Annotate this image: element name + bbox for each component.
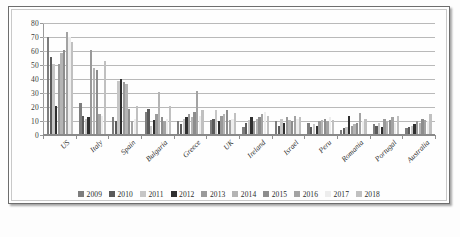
y-tick-mark [40, 121, 43, 122]
y-tick-mark [40, 65, 43, 66]
x-tick-mark [435, 135, 436, 139]
bar-groups [44, 23, 435, 134]
x-tick-label: Bulgaria [144, 138, 169, 163]
chart-screenshot: 01020304050607080 USItalySpainBulgariaGr… [0, 0, 460, 237]
bar [267, 116, 269, 134]
bar-group [239, 23, 272, 134]
bar [201, 110, 203, 134]
legend-label: 2015 [272, 190, 287, 199]
bar [71, 42, 73, 134]
bar [234, 113, 236, 134]
bar-group [305, 23, 338, 134]
bar [332, 120, 334, 134]
bar-group [370, 23, 403, 134]
legend-label: 2013 [210, 190, 225, 199]
x-tick-label: UK [221, 138, 235, 152]
x-tick-label: Peru [316, 138, 333, 155]
y-tick-mark [40, 93, 43, 94]
legend-label: 2011 [148, 190, 163, 199]
legend-item[interactable]: 2018 [356, 190, 380, 199]
legend-label: 2010 [118, 190, 133, 199]
chart-legend: 2009201020112012201320142015201620172018 [19, 185, 439, 203]
x-tick-label: Spain [118, 138, 137, 157]
legend-item[interactable]: 2016 [294, 190, 318, 199]
bar [169, 106, 171, 134]
x-tick-label: US [59, 138, 72, 151]
y-tick-label: 40 [31, 75, 39, 84]
bar-group [44, 23, 77, 134]
legend-label: 2014 [241, 190, 256, 199]
legend-label: 2017 [334, 190, 349, 199]
y-tick-mark [40, 107, 43, 108]
x-tick-labels: USItalySpainBulgariaGreeceUKIrelandIsrae… [43, 138, 435, 184]
y-tick-label: 70 [31, 33, 39, 42]
plot-area: 01020304050607080 [43, 23, 435, 135]
legend-item[interactable]: 2013 [201, 190, 225, 199]
y-tick-mark [40, 37, 43, 38]
legend-label: 2012 [179, 190, 194, 199]
x-tick-label: Australia [405, 138, 431, 164]
y-tick-mark [40, 51, 43, 52]
y-tick-mark [40, 23, 43, 24]
legend-swatch-icon [201, 191, 207, 197]
legend-swatch-icon [356, 191, 362, 197]
bar [429, 114, 431, 134]
x-tick-label: Ireland [246, 138, 268, 160]
y-tick-label: 30 [31, 89, 39, 98]
y-tick-label: 20 [31, 103, 39, 112]
bar-group [402, 23, 435, 134]
legend-swatch-icon [263, 191, 269, 197]
bar-group [207, 23, 240, 134]
legend-swatch-icon [109, 191, 115, 197]
x-tick-label: Italy [88, 138, 104, 154]
legend-swatch-icon [232, 191, 238, 197]
y-tick-label: 50 [31, 61, 39, 70]
legend-swatch-icon [78, 191, 84, 197]
y-tick-label: 10 [31, 117, 39, 126]
bar-group [272, 23, 305, 134]
bar [364, 119, 366, 134]
bar-group [109, 23, 142, 134]
y-tick-label: 60 [31, 47, 39, 56]
bar [136, 106, 138, 134]
legend-swatch-icon [140, 191, 146, 197]
chart-frame: 01020304050607080 USItalySpainBulgariaGr… [8, 6, 450, 204]
bar-group [337, 23, 370, 134]
legend-label: 2009 [87, 190, 102, 199]
bar-group [142, 23, 175, 134]
y-tick-label: 80 [31, 19, 39, 28]
legend-item[interactable]: 2014 [232, 190, 256, 199]
legend-swatch-icon [294, 191, 300, 197]
bar-group [174, 23, 207, 134]
bar [397, 116, 399, 134]
legend-swatch-icon [171, 191, 177, 197]
x-tick-label: Greece [181, 138, 203, 160]
y-tick-label: 0 [35, 131, 39, 140]
legend-item[interactable]: 2010 [109, 190, 133, 199]
legend-label: 2016 [303, 190, 318, 199]
x-tick-label: Israel [281, 138, 300, 157]
x-tick-label: Romania [340, 138, 366, 164]
x-tick-label: Portugal [373, 138, 398, 163]
bar [104, 61, 106, 134]
legend-item[interactable]: 2011 [140, 190, 164, 199]
bar [299, 117, 301, 134]
y-tick-mark [40, 79, 43, 80]
legend-item[interactable]: 2017 [325, 190, 349, 199]
legend-label: 2018 [364, 190, 379, 199]
bar-group [77, 23, 110, 134]
legend-swatch-icon [325, 191, 331, 197]
legend-item[interactable]: 2015 [263, 190, 287, 199]
legend-item[interactable]: 2009 [78, 190, 102, 199]
legend-item[interactable]: 2012 [171, 190, 195, 199]
